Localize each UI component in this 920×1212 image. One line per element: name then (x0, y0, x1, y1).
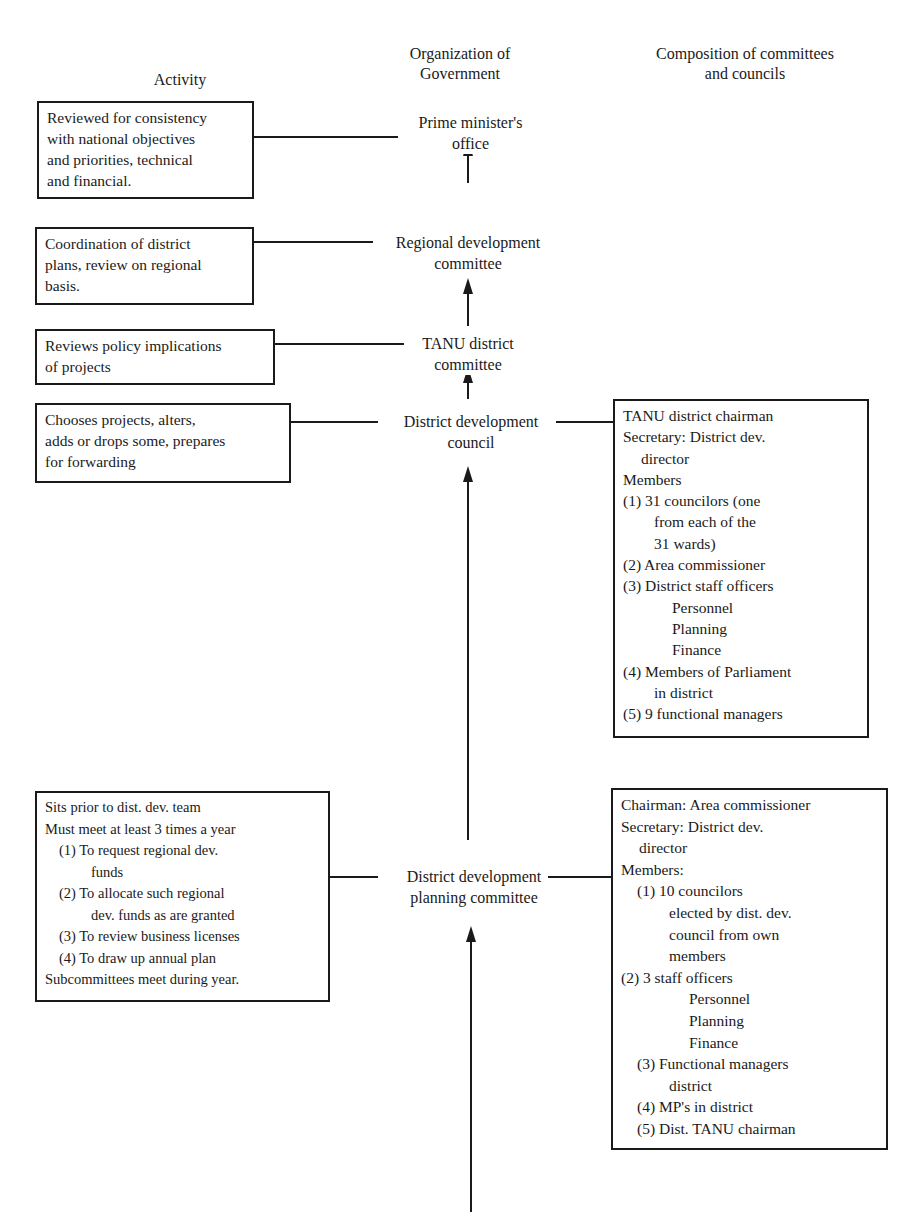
activity-text: adds or drops some, prepares (45, 430, 281, 451)
activity-text: of projects (45, 356, 265, 377)
activity-text: (3) To review business licenses (45, 926, 320, 948)
activity-text: dev. funds as are granted (45, 905, 320, 927)
composition-box-district-council: TANU district chairman Secretary: Distri… (613, 399, 869, 738)
activity-text: and priorities, technical (47, 149, 244, 170)
activity-text: (1) To request regional dev. (45, 840, 320, 862)
activity-text: Reviews policy implications (45, 335, 265, 356)
composition-box-planning-committee: Chairman: Area commissioner Secretary: D… (611, 788, 888, 1150)
activity-text: Subcommittees meet during year. (45, 969, 320, 991)
activity-box-planning-committee: Sits prior to dist. dev. team Must meet … (35, 791, 330, 1002)
node-label: council (381, 432, 561, 453)
node-label: District development (381, 411, 561, 432)
connector-activity-3 (274, 343, 404, 345)
composition-text: Personnel (621, 988, 878, 1010)
header-organization: Organization of Government (370, 44, 550, 84)
composition-text: Secretary: District dev. (621, 816, 878, 838)
activity-text: Reviewed for consistency (47, 107, 244, 128)
composition-text: Secretary: District dev. (623, 426, 859, 447)
composition-text: (1) 31 councilors (one (623, 490, 859, 511)
activity-text: with national objectives (47, 128, 244, 149)
composition-text: director (623, 448, 859, 469)
composition-text: director (621, 837, 878, 859)
composition-text: Finance (623, 639, 859, 660)
composition-text: Members (623, 469, 859, 490)
composition-text: 31 wards) (623, 533, 859, 554)
connector-activity-2 (253, 241, 373, 243)
composition-text: Planning (623, 618, 859, 639)
composition-text: Planning (621, 1010, 878, 1032)
composition-text: district (621, 1075, 878, 1097)
arrow-up-icon (466, 926, 476, 942)
composition-text: (5) Dist. TANU chairman (621, 1118, 878, 1140)
node-regional-development-committee: Regional development committee (372, 232, 564, 274)
activity-text: Sits prior to dist. dev. team (45, 797, 320, 819)
composition-text: TANU district chairman (623, 405, 859, 426)
composition-text: (4) MP's in district (621, 1096, 878, 1118)
activity-text: Coordination of district (45, 233, 244, 254)
composition-text: elected by dist. dev. (621, 902, 878, 924)
composition-text: Members: (621, 859, 878, 881)
header-organization-line1: Organization of (370, 44, 550, 64)
composition-text: (4) Members of Parliament (623, 661, 859, 682)
node-label: planning committee (379, 887, 569, 908)
header-activity: Activity (120, 70, 240, 90)
activity-text: for forwarding (45, 451, 281, 472)
composition-text: Personnel (623, 597, 859, 618)
node-label: Prime minister's (398, 112, 543, 133)
activity-box-tanu: Reviews policy implications of projects (35, 329, 275, 385)
activity-text: (2) To allocate such regional (45, 883, 320, 905)
composition-text: council from own (621, 924, 878, 946)
composition-text: in district (623, 682, 859, 703)
activity-text: funds (45, 862, 320, 884)
composition-text: (3) Functional managers (621, 1053, 878, 1075)
composition-text: (2) Area commissioner (623, 554, 859, 575)
node-district-development-planning-committee: District development planning committee (376, 866, 572, 908)
arrow-shaft-5 (470, 936, 472, 1212)
composition-text: members (621, 945, 878, 967)
activity-box-district-council: Chooses projects, alters, adds or drops … (35, 403, 291, 483)
node-label: committee (405, 354, 531, 375)
activity-text: plans, review on regional (45, 254, 244, 275)
composition-text: Finance (621, 1032, 878, 1054)
node-district-development-council: District development council (378, 411, 564, 453)
composition-text: (5) 9 functional managers (623, 703, 859, 724)
composition-text: Chairman: Area commissioner (621, 794, 878, 816)
connector-composition-1 (556, 421, 618, 423)
arrow-shaft-4 (467, 476, 469, 840)
activity-text: and financial. (47, 170, 244, 191)
activity-box-prime-minister: Reviewed for consistency with national o… (37, 101, 254, 199)
composition-text: from each of the (623, 511, 859, 532)
composition-text: (3) District staff officers (623, 575, 859, 596)
header-composition-line2: and councils (620, 64, 870, 84)
connector-activity-1 (253, 136, 398, 138)
activity-text: Must meet at least 3 times a year (45, 819, 320, 841)
node-label: Regional development (375, 232, 561, 253)
composition-text: (2) 3 staff officers (621, 967, 878, 989)
node-label: TANU district (405, 333, 531, 354)
header-composition-line1: Composition of committees (620, 44, 870, 64)
arrow-up-icon (463, 466, 473, 482)
header-activity-text: Activity (120, 70, 240, 90)
connector-composition-2 (548, 876, 612, 878)
connector-activity-4 (290, 421, 378, 423)
arrow-up-icon (463, 278, 473, 294)
composition-text: (1) 10 councilors (621, 880, 878, 902)
activity-text: basis. (45, 275, 244, 296)
header-composition: Composition of committees and councils (620, 44, 870, 84)
activity-box-regional: Coordination of district plans, review o… (35, 227, 254, 305)
node-tanu-district-committee: TANU district committee (402, 333, 534, 375)
node-label: District development (379, 866, 569, 887)
node-prime-minister-office: Prime minister's office (395, 112, 546, 154)
node-label: committee (375, 253, 561, 274)
node-label: office (398, 133, 543, 154)
activity-text: (4) To draw up annual plan (45, 948, 320, 970)
connector-activity-5 (328, 876, 378, 878)
activity-text: Chooses projects, alters, (45, 409, 281, 430)
header-organization-line2: Government (370, 64, 550, 84)
